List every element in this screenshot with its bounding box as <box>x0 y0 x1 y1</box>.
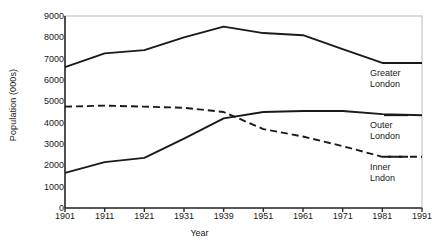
plot-frame <box>65 16 422 208</box>
legend-label-0: Greater London <box>370 68 401 90</box>
legend-label-2: Inner Lndon <box>370 162 395 184</box>
x-axis-title: Year <box>0 228 439 238</box>
series-lines <box>65 27 422 173</box>
legend-label-1: Outer London <box>370 120 400 142</box>
series-line-0 <box>65 27 422 68</box>
x-axis-title-text: Year <box>190 228 208 238</box>
population-line-chart: Population (000s) 9000800070006000500040… <box>0 0 439 252</box>
